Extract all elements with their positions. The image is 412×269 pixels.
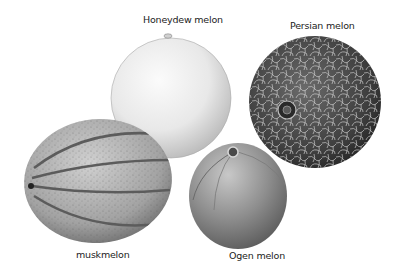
ogen-melon [189, 143, 287, 249]
label-persian-melon: Persian melon [290, 20, 355, 31]
label-ogen-melon: Ogen melon [229, 250, 285, 261]
persian-melon [249, 36, 381, 168]
label-honeydew-melon: Honeydew melon [143, 14, 223, 25]
melon-illustration [0, 0, 412, 269]
label-muskmelon: muskmelon [76, 249, 130, 260]
